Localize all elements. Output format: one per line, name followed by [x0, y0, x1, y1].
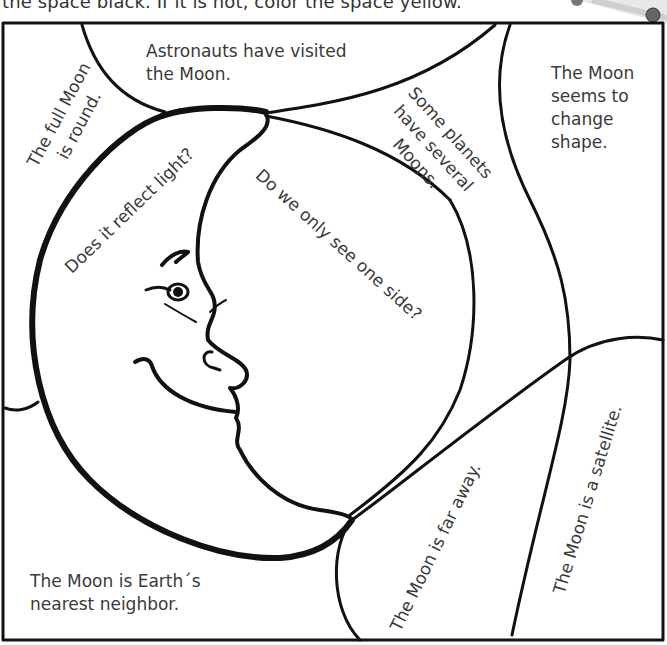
nostril: [204, 352, 220, 370]
space-nearest-neighbor[interactable]: The Moon is Earth´s nearest neighbor.: [30, 570, 201, 616]
space-label: nearest neighbor.: [30, 593, 201, 616]
space-label: The Moon: [551, 62, 634, 85]
space-astronauts[interactable]: Astronauts have visited the Moon.: [146, 40, 346, 86]
space-label: shape.: [551, 131, 634, 154]
space-label: change: [551, 108, 634, 131]
space-label: The Moon is Earth´s: [30, 570, 201, 593]
moon-circle: [32, 116, 352, 558]
smile: [135, 359, 236, 412]
space-seems-to-change[interactable]: The Moon seems to change shape.: [551, 62, 634, 154]
space-label: the Moon.: [146, 63, 346, 86]
eyebrow: [162, 252, 188, 265]
space-label: Astronauts have visited: [146, 40, 346, 63]
space-label: seems to: [551, 85, 634, 108]
